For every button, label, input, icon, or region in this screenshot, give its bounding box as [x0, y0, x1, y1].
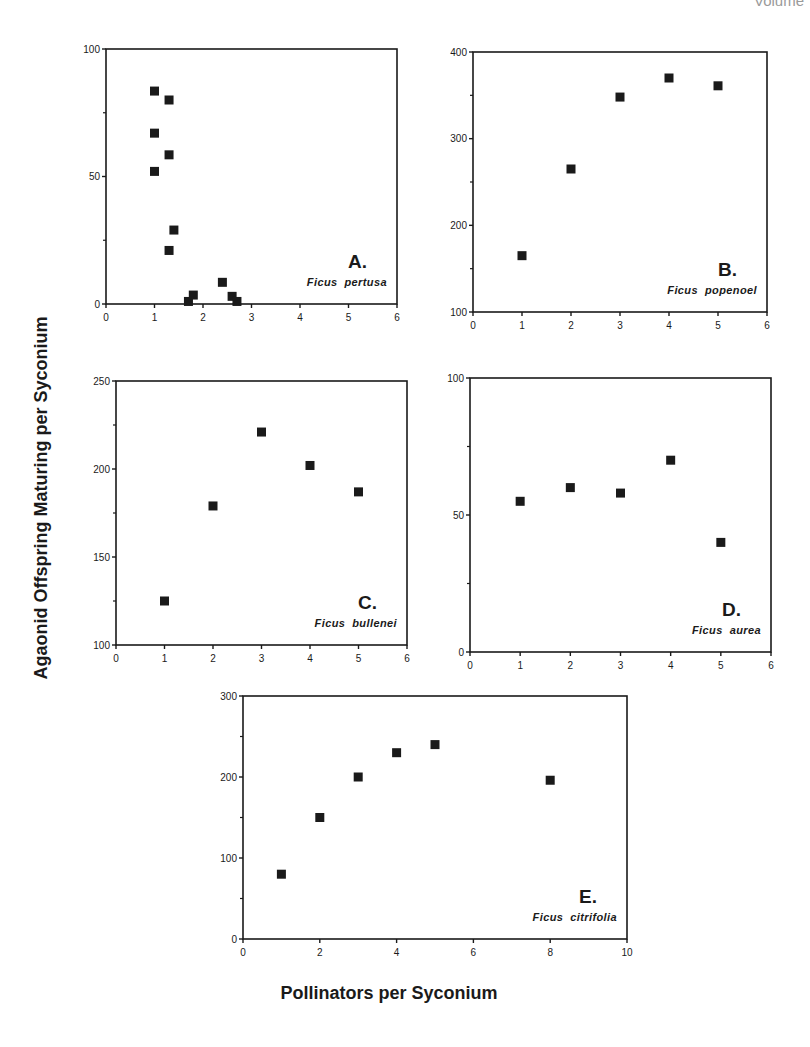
data-point: [189, 291, 198, 300]
y-axis-title: Agaonid Offspring Maturing per Syconium: [31, 316, 51, 679]
data-point: [714, 81, 723, 90]
x-tick-label: 4: [307, 653, 313, 664]
x-axis-title: Pollinators per Syconium: [280, 983, 497, 1003]
data-point: [616, 489, 625, 498]
x-tick-label: 3: [618, 660, 624, 671]
data-point: [169, 226, 178, 235]
data-point: [165, 96, 174, 105]
data-point: [165, 150, 174, 159]
y-tick-label: 200: [220, 772, 237, 783]
x-tick-label: 6: [394, 312, 400, 323]
species-label: Ficus citrifolia: [533, 911, 617, 923]
data-point: [354, 487, 363, 496]
scatter-panel-c: 1001502002500123456C.Ficus bullenei: [93, 376, 410, 665]
x-tick-label: 4: [668, 660, 674, 671]
species-label: Ficus pertusa: [307, 276, 387, 288]
y-tick-label: 300: [220, 691, 237, 702]
species-label: Ficus aurea: [692, 624, 761, 636]
data-point: [165, 246, 174, 255]
x-tick-label: 4: [666, 320, 672, 331]
data-point: [616, 93, 625, 102]
panel-letter: C.: [358, 592, 377, 613]
data-point: [218, 278, 227, 287]
data-point: [150, 129, 159, 138]
x-tick-label: 4: [394, 947, 400, 958]
data-point: [150, 167, 159, 176]
y-tick-label: 0: [94, 299, 100, 310]
y-tick-label: 0: [231, 934, 237, 945]
x-tick-label: 2: [317, 947, 323, 958]
data-point: [431, 740, 440, 749]
x-tick-label: 0: [103, 312, 109, 323]
y-tick-label: 100: [93, 640, 110, 651]
x-tick-label: 1: [152, 312, 158, 323]
data-point: [150, 87, 159, 96]
x-tick-label: 3: [249, 312, 255, 323]
scatter-panel-b: 1002003004000123456B.Ficus popenoel: [450, 47, 770, 332]
data-point: [209, 501, 218, 510]
x-tick-label: 3: [617, 320, 623, 331]
data-point: [315, 813, 324, 822]
x-tick-label: 5: [346, 312, 352, 323]
y-tick-label: 100: [447, 373, 464, 384]
scatter-panel-e: 01002003000246810E.Ficus citrifolia: [220, 691, 633, 959]
scatter-panel-a: 0501000123456A.Ficus pertusa: [83, 44, 400, 324]
data-point: [392, 748, 401, 757]
data-point: [518, 251, 527, 260]
data-point: [546, 776, 555, 785]
panel-letter: E.: [579, 886, 597, 907]
species-label: Ficus popenoel: [667, 284, 757, 296]
data-point: [665, 74, 674, 83]
plot-frame: [243, 696, 627, 939]
x-tick-label: 0: [240, 947, 246, 958]
x-tick-label: 5: [715, 320, 721, 331]
panels-group: 0501000123456A.Ficus pertusa100200300400…: [83, 44, 774, 959]
x-tick-label: 2: [568, 320, 574, 331]
x-tick-label: 8: [547, 947, 553, 958]
x-tick-label: 6: [404, 653, 410, 664]
x-tick-label: 6: [764, 320, 770, 331]
figure-canvas: 0501000123456A.Ficus pertusa100200300400…: [0, 0, 810, 1047]
data-point: [306, 461, 315, 470]
y-tick-label: 150: [93, 552, 110, 563]
y-tick-label: 50: [89, 171, 101, 182]
y-tick-label: 100: [83, 44, 100, 55]
x-tick-label: 2: [200, 312, 206, 323]
y-tick-label: 200: [93, 464, 110, 475]
data-point: [567, 165, 576, 174]
x-tick-label: 2: [568, 660, 574, 671]
x-tick-label: 2: [210, 653, 216, 664]
y-tick-label: 200: [450, 220, 467, 231]
y-tick-label: 50: [453, 510, 465, 521]
data-point: [232, 297, 241, 306]
data-point: [516, 497, 525, 506]
x-tick-label: 0: [467, 660, 473, 671]
x-tick-label: 4: [297, 312, 303, 323]
x-tick-label: 6: [471, 947, 477, 958]
x-tick-label: 6: [768, 660, 774, 671]
data-point: [160, 597, 169, 606]
scatter-panel-d: 0501000123456D.Ficus aurea: [447, 373, 774, 672]
y-tick-label: 250: [93, 376, 110, 387]
y-tick-label: 0: [458, 647, 464, 658]
data-point: [666, 456, 675, 465]
x-tick-label: 5: [718, 660, 724, 671]
panel-letter: A.: [348, 251, 367, 272]
y-tick-label: 100: [220, 853, 237, 864]
y-tick-label: 300: [450, 133, 467, 144]
y-tick-label: 400: [450, 47, 467, 58]
x-tick-label: 1: [162, 653, 168, 664]
data-point: [277, 870, 286, 879]
species-label: Ficus bullenei: [315, 617, 398, 629]
x-tick-label: 0: [113, 653, 119, 664]
data-point: [354, 773, 363, 782]
x-tick-label: 1: [517, 660, 523, 671]
x-tick-label: 1: [519, 320, 525, 331]
x-tick-label: 5: [356, 653, 362, 664]
data-point: [566, 483, 575, 492]
x-tick-label: 10: [621, 947, 633, 958]
x-tick-label: 0: [470, 320, 476, 331]
data-point: [257, 428, 266, 437]
x-tick-label: 3: [259, 653, 265, 664]
data-point: [716, 538, 725, 547]
